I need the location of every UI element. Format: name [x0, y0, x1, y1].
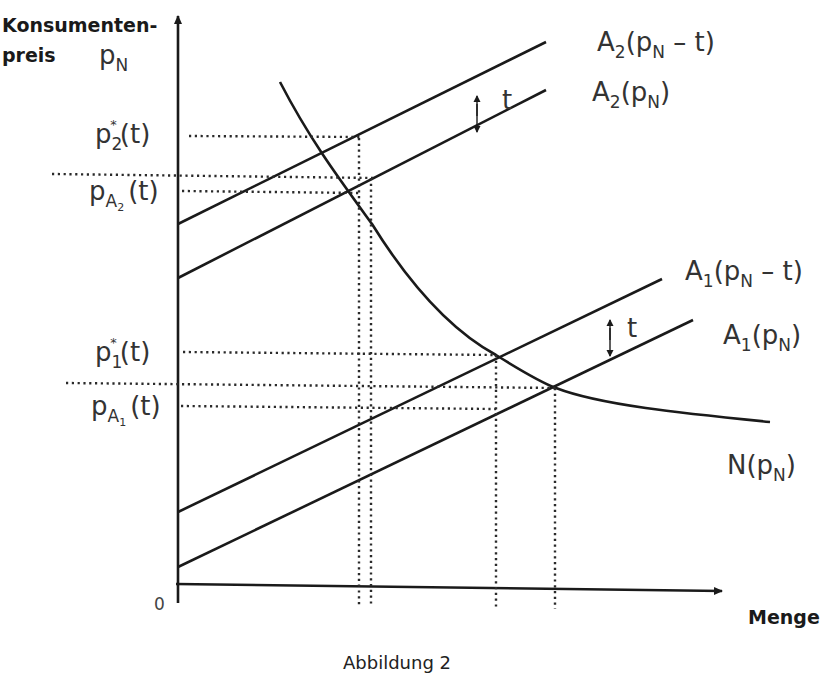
- curve-label-A1: A1(pN): [723, 322, 801, 354]
- supply-curve-A2: [178, 90, 546, 278]
- supply-curve-A2-shifted: [178, 42, 546, 224]
- tax-label-lower: t: [627, 315, 637, 341]
- tax-label-upper: t: [502, 87, 512, 113]
- figure-caption: Abbildung 2: [343, 654, 451, 672]
- y-axis-symbol: pN: [99, 42, 128, 74]
- tick-label-pA1: pA1(t): [91, 393, 161, 428]
- guide-p2-star: [189, 136, 360, 137]
- curve-label-A2-shifted: A2(pN – t): [597, 29, 715, 61]
- supply-curve-A1: [178, 320, 693, 567]
- guide-lower-long: [66, 383, 556, 388]
- y-axis-label-line2: preis: [2, 46, 56, 65]
- y-axis-label-line1: Konsumenten-: [2, 16, 157, 35]
- x-axis-label: Menge: [748, 608, 820, 627]
- tick-label-p2-star: p2*(t): [95, 118, 150, 153]
- guide-pA2: [182, 191, 360, 193]
- guide-pA1: [181, 406, 496, 409]
- supply-curve-A1-shifted: [178, 279, 662, 512]
- curve-label-A1-shifted: A1(pN – t): [685, 258, 803, 290]
- origin-label: 0: [154, 596, 165, 613]
- demand-curve-N: [280, 82, 770, 422]
- tick-label-pA2: pA2(t): [89, 178, 159, 213]
- curve-label-A2: A2(pN): [592, 79, 670, 111]
- guide-p1-star: [183, 352, 496, 355]
- tick-label-p1-star: p1*(t): [95, 336, 150, 371]
- curve-label-N: N(pN): [727, 452, 796, 484]
- x-axis: [176, 584, 722, 591]
